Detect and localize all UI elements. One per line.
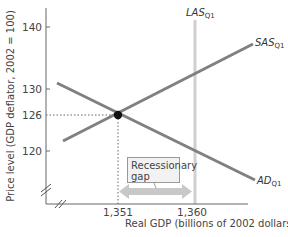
y-tick-label-126: 126 — [14, 110, 42, 121]
ad-label: ADQ1 — [257, 176, 282, 188]
x-tick-label-1351: 1,351 — [103, 207, 133, 218]
las-label-main: LAS — [186, 7, 205, 18]
sas-label-sub: Q1 — [275, 42, 285, 50]
gap-label-line2: gap — [131, 171, 176, 182]
ad-label-main: AD — [257, 175, 272, 186]
gap-pointer — [154, 183, 156, 188]
y-tick-label-140: 140 — [14, 22, 42, 33]
sas-label-main: SAS — [255, 37, 275, 48]
y-tick-label-120: 120 — [14, 146, 42, 157]
sas-label: SASQ1 — [255, 38, 285, 50]
aggregate-supply-demand-chart: 140 130 126 120 1,351 1,360 Price level … — [0, 0, 288, 237]
gap-label-line1: Recessionary — [131, 160, 176, 171]
sas-curve — [63, 44, 253, 141]
las-label: LASQ1 — [186, 8, 215, 20]
recessionary-gap-label: Recessionary gap — [127, 157, 180, 183]
ad-label-sub: Q1 — [272, 180, 282, 188]
chart-plot — [0, 0, 288, 237]
x-axis-title: Real GDP (billions of 2002 dollars) — [125, 218, 288, 229]
y-axis-title: Price level (GDP deflator, 2002 = 100) — [5, 10, 16, 202]
las-label-sub: Q1 — [205, 12, 215, 20]
equilibrium-point — [114, 111, 122, 119]
x-tick-label-1360: 1,360 — [177, 207, 207, 218]
y-tick-label-130: 130 — [14, 84, 42, 95]
